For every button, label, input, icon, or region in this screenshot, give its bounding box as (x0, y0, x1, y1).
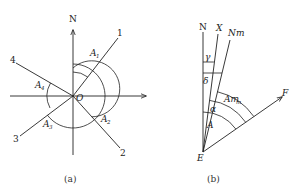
label-line-1: 1 (117, 28, 123, 38)
caption-a: (a) (64, 174, 76, 184)
label-gamma: γ (205, 52, 211, 62)
diagram-canvas: N O 1 2 3 4 A 1 A 2 A 3 A 4 (a) (0, 0, 292, 190)
caption-b: (b) (207, 174, 220, 184)
line-3 (20, 96, 73, 136)
label-alpha: α (210, 104, 216, 114)
arc-a2 (73, 61, 120, 117)
label-nm: Nm (227, 28, 244, 38)
label-azimuth: A (206, 120, 214, 130)
label-e: E (196, 153, 204, 163)
label-line-4: 4 (10, 55, 16, 65)
label-f: F (281, 88, 289, 98)
label-line-3: 3 (13, 134, 19, 144)
label-a4: A 4 (34, 80, 45, 91)
line-1 (73, 38, 118, 96)
svg-text:m: m (236, 99, 241, 105)
svg-text:1: 1 (96, 53, 100, 59)
label-a2: A 2 (100, 114, 111, 125)
label-a1: A 1 (89, 48, 100, 59)
panel-b: N X Nm F E γ δ α A Am m (b) (196, 22, 289, 184)
svg-text:3: 3 (49, 124, 53, 130)
label-magnetic-azimuth: Am m (223, 94, 241, 105)
label-north: N (69, 14, 77, 24)
label-delta: δ (203, 76, 208, 86)
arc-a1 (73, 72, 88, 77)
label-n: N (199, 22, 207, 32)
arc-a4 (47, 83, 50, 108)
label-origin: O (76, 93, 84, 103)
line-2 (73, 96, 120, 148)
label-a3: A 3 (42, 119, 53, 130)
panel-a: N O 1 2 3 4 A 1 A 2 A 3 A 4 (a) (10, 14, 146, 184)
label-x: X (215, 23, 223, 33)
svg-text:2: 2 (106, 119, 111, 125)
label-line-2: 2 (120, 148, 126, 158)
line-4 (16, 63, 73, 96)
svg-text:4: 4 (40, 85, 45, 91)
